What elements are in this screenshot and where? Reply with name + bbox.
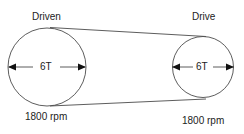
driven-speed-label: 1800 rpm [25,111,67,122]
driven-teeth-label: 6T [40,61,52,72]
drive-speed-label: 1800 rpm [182,115,224,126]
driven-label: Driven [32,11,61,22]
drive-label: Drive [192,11,215,22]
pulley-diagram: Driven 6T 1800 rpm Drive 6T 1800 rpm [0,0,244,134]
drive-teeth-label: 6T [196,61,208,72]
